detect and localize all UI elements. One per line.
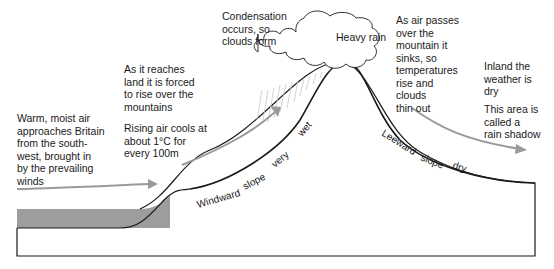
label-air-passes: As air passes over the mountain it sinks…	[396, 14, 459, 114]
slope-label-windward: Windward	[196, 187, 242, 210]
label-inland-dry: Inland the weather is dry	[484, 60, 532, 98]
slope-label-windward-slope: slope	[241, 171, 268, 192]
label-rising-cools: Rising air cools at about 1°C for every …	[124, 122, 207, 160]
label-reaches-land: As it reaches land it is forced to rise …	[124, 63, 195, 113]
label-condensation: Condensation occurs, so clouds form	[222, 10, 287, 48]
slope-label-leeward: Leeward	[380, 127, 418, 157]
slope-label-leeward-slope: slope	[419, 152, 446, 171]
sea	[17, 196, 170, 228]
slope-label-very: very	[269, 149, 291, 170]
label-heavy-rain: Heavy rain	[336, 31, 386, 44]
label-rain-shadow: This area is called a rain shadow	[484, 103, 541, 141]
slope-label-wet: wet	[294, 119, 313, 139]
label-warm-air: Warm, moist air approaches Britain from …	[17, 112, 105, 187]
